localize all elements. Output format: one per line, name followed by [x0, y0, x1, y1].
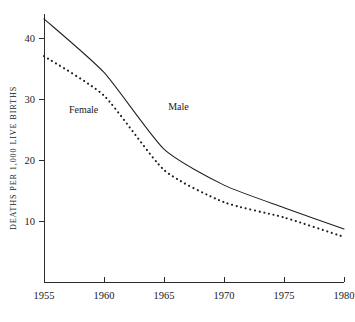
y-axis-tick-label: 20	[25, 155, 36, 166]
x-axis-tick-label: 1970	[214, 290, 235, 301]
data-series	[44, 19, 344, 237]
series-line-male	[44, 19, 344, 229]
chart-container: DEATHS PER 1,000 LIVE BIRTHS 10203040 19…	[0, 0, 355, 322]
line-chart: DEATHS PER 1,000 LIVE BIRTHS 10203040 19…	[0, 0, 355, 322]
series-line-female	[44, 56, 344, 237]
y-axis-tick-label: 10	[25, 216, 36, 227]
series-annotations: FemaleMale	[69, 101, 189, 114]
x-axis-tick-label: 1960	[94, 290, 115, 301]
series-label-female: Female	[69, 104, 99, 115]
y-axis-title: DEATHS PER 1,000 LIVE BIRTHS	[9, 86, 18, 230]
series-label-male: Male	[168, 101, 189, 112]
axis-lines	[44, 14, 344, 282]
x-axis-ticks: 195519601965197019751980	[34, 277, 355, 301]
x-axis-tick-label: 1955	[34, 290, 55, 301]
y-axis-tick-label: 30	[25, 94, 36, 105]
y-axis-tick-label: 40	[25, 33, 36, 44]
x-axis-tick-label: 1965	[154, 290, 175, 301]
x-axis-tick-label: 1975	[274, 290, 295, 301]
y-axis-ticks: 10203040	[25, 33, 45, 227]
x-axis-tick-label: 1980	[334, 290, 355, 301]
y-axis-title-label: DEATHS PER 1,000 LIVE BIRTHS	[9, 86, 18, 230]
